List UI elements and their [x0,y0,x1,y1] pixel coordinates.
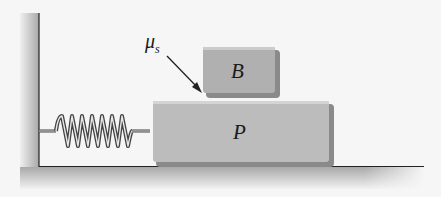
spring [39,116,150,146]
block-b-label: B [231,59,244,84]
block-p-label: P [233,120,246,145]
diagram-canvas [0,0,441,197]
wall [20,13,39,171]
mu-symbol: μ [145,30,155,52]
friction-arrow [167,56,202,93]
friction-label: μs [145,30,160,57]
floor [20,167,425,190]
mu-subscript: s [155,42,160,56]
